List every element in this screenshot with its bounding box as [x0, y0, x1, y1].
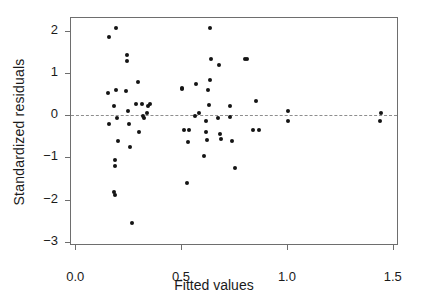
y-axis-tick [65, 242, 71, 243]
plot-frame: 0.00.51.01.5 [70, 17, 398, 245]
data-point [186, 140, 190, 144]
y-axis-tick [65, 31, 71, 32]
data-point [208, 78, 212, 82]
data-point [125, 53, 129, 57]
data-point [113, 193, 117, 197]
y-axis-tick [65, 73, 71, 74]
x-axis-tick [287, 244, 288, 250]
data-point [127, 122, 131, 126]
data-point [378, 119, 382, 123]
y-axis-tick [65, 200, 71, 201]
data-point [251, 128, 255, 132]
data-point [194, 82, 198, 86]
y-axis-tick-label: −3 [34, 234, 58, 247]
data-point [218, 132, 222, 136]
data-point [286, 119, 290, 123]
x-axis-label: Fitted values [0, 277, 428, 293]
data-point [107, 35, 111, 39]
data-point [206, 88, 210, 92]
data-point [182, 128, 186, 132]
data-point [115, 116, 119, 120]
data-point [257, 128, 261, 132]
data-point [125, 59, 129, 63]
data-point [208, 26, 212, 30]
data-point [202, 154, 206, 158]
data-point [142, 116, 146, 120]
y-axis-tick-label: −1 [34, 149, 58, 162]
data-point [379, 111, 383, 115]
y-axis-tick-label: 0 [34, 107, 58, 120]
data-point [228, 104, 232, 108]
data-point [116, 139, 120, 143]
data-point [185, 181, 189, 185]
y-axis-tick [65, 157, 71, 158]
data-point [106, 91, 110, 95]
data-point [136, 80, 140, 84]
data-point [124, 89, 128, 93]
data-point [107, 122, 111, 126]
data-point [209, 57, 213, 61]
data-point [286, 109, 290, 113]
data-point [187, 128, 191, 132]
data-point [197, 111, 201, 115]
scatter-points-layer [71, 18, 397, 244]
data-point [204, 130, 208, 134]
data-point [193, 114, 197, 118]
data-point [207, 103, 211, 107]
data-point [112, 104, 116, 108]
data-point [145, 111, 149, 115]
data-point [113, 158, 117, 162]
data-point [148, 102, 152, 106]
data-point [204, 119, 208, 123]
data-point [128, 145, 132, 149]
y-axis-tick-label: −2 [34, 192, 58, 205]
data-point [114, 88, 118, 92]
data-point [254, 99, 258, 103]
data-point [230, 139, 234, 143]
data-point [140, 102, 144, 106]
data-point [228, 115, 232, 119]
x-axis-tick [75, 244, 76, 250]
data-point [219, 137, 223, 141]
data-point [113, 164, 117, 168]
data-point [233, 166, 237, 170]
data-point [137, 130, 141, 134]
data-point [205, 138, 209, 142]
data-point [245, 57, 249, 61]
data-point [130, 221, 134, 225]
data-point [114, 26, 118, 30]
data-point [217, 63, 221, 67]
y-axis-tick-label: 2 [34, 23, 58, 36]
x-axis-tick [393, 244, 394, 250]
y-axis-label-wrapper: Standardized residuals [10, 17, 30, 247]
data-point [216, 116, 220, 120]
y-axis-tick-label: 1 [34, 65, 58, 78]
data-point [126, 109, 130, 113]
residual-plot-figure: 0.00.51.01.5 Fitted values Standardized … [0, 0, 428, 307]
x-axis-tick [181, 244, 182, 250]
y-axis-tick [65, 115, 71, 116]
y-axis-label: Standardized residuals [11, 59, 27, 206]
data-point [134, 102, 138, 106]
